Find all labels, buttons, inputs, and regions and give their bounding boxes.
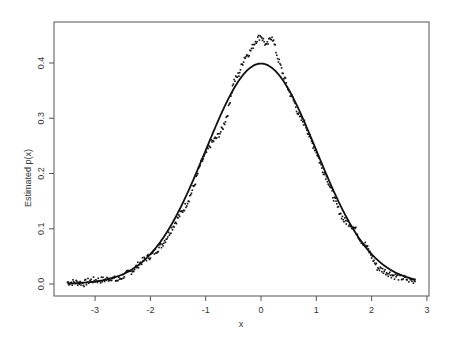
estimate-point xyxy=(185,207,187,209)
estimate-point xyxy=(147,254,149,256)
estimate-point xyxy=(311,140,313,142)
estimate-point xyxy=(406,279,408,281)
estimate-point xyxy=(294,103,296,105)
estimate-point xyxy=(319,162,321,164)
estimate-point xyxy=(177,217,179,219)
estimate-point xyxy=(237,76,239,78)
estimate-point xyxy=(111,280,113,282)
estimate-point xyxy=(332,197,334,199)
estimate-point xyxy=(391,277,393,279)
estimate-point xyxy=(413,282,415,284)
estimate-point xyxy=(184,203,186,205)
estimate-point xyxy=(408,281,410,283)
estimate-point xyxy=(136,267,138,269)
estimate-point xyxy=(310,137,312,139)
estimate-point xyxy=(163,242,165,244)
estimate-point xyxy=(338,206,340,208)
estimate-point xyxy=(258,35,260,37)
estimate-point xyxy=(109,279,111,281)
estimate-point xyxy=(380,267,382,269)
y-tick-label: 0.3 xyxy=(36,112,46,125)
estimate-point xyxy=(277,58,279,60)
estimate-point xyxy=(293,101,295,103)
estimate-point xyxy=(313,146,315,148)
estimate-point xyxy=(121,278,123,280)
estimate-point xyxy=(103,279,105,281)
estimate-point xyxy=(206,151,208,153)
estimate-point xyxy=(382,268,384,270)
estimate-point xyxy=(171,227,173,229)
estimate-point xyxy=(267,41,269,43)
estimate-point xyxy=(251,48,253,50)
estimate-point xyxy=(78,282,80,284)
estimate-point xyxy=(300,115,302,117)
estimate-point xyxy=(162,245,164,247)
estimate-point xyxy=(280,64,282,66)
estimate-point xyxy=(239,72,241,74)
estimate-point xyxy=(224,124,226,126)
estimate-point xyxy=(369,251,371,253)
estimate-point xyxy=(86,281,88,283)
estimate-point xyxy=(372,255,374,257)
estimate-point xyxy=(97,282,99,284)
estimate-point xyxy=(387,275,389,277)
estimate-point xyxy=(266,43,268,45)
x-tick-label: -1 xyxy=(202,305,210,315)
estimate-point xyxy=(381,271,383,273)
estimate-point xyxy=(298,112,300,114)
estimate-point xyxy=(358,238,360,240)
estimate-point xyxy=(153,250,155,252)
estimate-point xyxy=(334,197,336,199)
estimate-point xyxy=(394,278,396,280)
estimate-point xyxy=(72,279,74,281)
estimate-point xyxy=(388,273,390,275)
estimate-point xyxy=(323,172,325,174)
estimate-point xyxy=(374,262,376,264)
x-tick-label: 2 xyxy=(369,305,374,315)
estimate-point xyxy=(238,75,240,77)
estimate-point xyxy=(109,278,111,280)
estimate-point xyxy=(398,279,400,281)
estimate-point xyxy=(312,142,314,144)
estimate-point xyxy=(101,276,103,278)
estimate-point xyxy=(286,86,288,88)
estimate-point xyxy=(145,258,147,260)
estimate-point xyxy=(216,137,218,139)
y-axis-label: Estimated p(x) xyxy=(23,149,33,207)
estimate-point xyxy=(355,227,357,229)
estimate-point xyxy=(142,257,144,259)
estimate-point xyxy=(207,148,209,150)
estimate-point xyxy=(321,167,323,169)
estimate-point xyxy=(281,67,283,69)
estimate-point xyxy=(164,240,166,242)
estimate-point xyxy=(77,284,79,286)
estimate-point xyxy=(368,248,370,250)
x-tick-label: 3 xyxy=(424,305,429,315)
estimate-point xyxy=(278,61,280,63)
estimate-point xyxy=(114,275,116,277)
x-axis: -3-2-10123 xyxy=(91,296,429,315)
estimate-point xyxy=(237,72,239,74)
estimate-point xyxy=(262,40,264,42)
estimate-point xyxy=(344,217,346,219)
estimate-point xyxy=(331,190,333,192)
y-axis: 0.00.10.20.30.4 xyxy=(36,57,54,291)
estimate-point xyxy=(403,275,405,277)
estimate-point xyxy=(191,189,193,191)
estimate-point xyxy=(188,201,190,203)
estimate-point xyxy=(172,229,174,231)
estimate-point xyxy=(276,54,278,56)
estimate-point xyxy=(412,279,414,281)
estimate-point xyxy=(252,47,254,49)
estimate-point xyxy=(230,95,232,97)
estimate-point xyxy=(383,272,385,274)
estimate-point xyxy=(232,85,234,87)
estimate-point xyxy=(167,236,169,238)
estimate-point xyxy=(254,44,256,46)
estimate-point xyxy=(346,223,348,225)
estimate-point xyxy=(199,165,201,167)
x-axis-label: x xyxy=(239,319,244,329)
y-tick-label: 0.2 xyxy=(36,167,46,180)
estimate-point xyxy=(414,281,416,283)
estimate-point xyxy=(317,155,319,157)
